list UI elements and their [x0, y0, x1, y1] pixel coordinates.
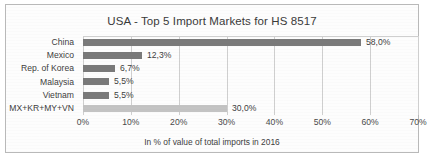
- xtick-20: 20%: [170, 117, 187, 127]
- bar-row-aggregate[interactable]: 30,0%: [83, 102, 418, 115]
- category-axis: China Mexico Rep. of Korea Malaysia Viet…: [6, 36, 78, 115]
- bar-rep-of-korea[interactable]: [83, 65, 115, 72]
- category-label-malaysia: Malaysia: [6, 76, 78, 89]
- xtick-30: 30%: [218, 117, 235, 127]
- bar-value-vietnam: 5,5%: [114, 89, 134, 102]
- xtick-50: 50%: [314, 117, 331, 127]
- xtick-70: 70%: [409, 117, 426, 127]
- category-label-aggregate: MX+KR+MY+VN: [6, 102, 78, 115]
- bar-vietnam[interactable]: [83, 92, 109, 99]
- chart-title: USA - Top 5 Import Markets for HS 8517: [6, 15, 418, 27]
- xtick-60: 60%: [362, 117, 379, 127]
- bar-china[interactable]: [83, 39, 361, 46]
- bar-row-vietnam[interactable]: 5,5%: [83, 89, 418, 102]
- bar-mexico[interactable]: [83, 52, 142, 59]
- xtick-0: 0%: [77, 117, 89, 127]
- plot-area: 58,0% 12,3% 6,7% 5,5% 5,5% 30,0%: [83, 36, 418, 115]
- x-axis: 0% 10% 20% 30% 40% 50% 60% 70%: [83, 117, 418, 131]
- xtick-40: 40%: [266, 117, 283, 127]
- bar-malaysia[interactable]: [83, 78, 109, 85]
- bar-aggregate[interactable]: [83, 105, 227, 112]
- x-axis-title: In % of value of total imports in 2016: [6, 137, 418, 147]
- category-label-rep-of-korea: Rep. of Korea: [6, 62, 78, 75]
- chart-figure: USA - Top 5 Import Markets for HS 8517 C…: [5, 4, 419, 153]
- bar-row-china[interactable]: 58,0%: [83, 36, 418, 49]
- category-label-vietnam: Vietnam: [6, 89, 78, 102]
- category-label-mexico: Mexico: [6, 49, 78, 62]
- bar-row-mexico[interactable]: 12,3%: [83, 49, 418, 62]
- bar-value-mexico: 12,3%: [147, 49, 171, 62]
- bar-row-malaysia[interactable]: 5,5%: [83, 75, 418, 88]
- bar-value-aggregate: 30,0%: [232, 102, 256, 115]
- category-label-china: China: [6, 36, 78, 49]
- xtick-10: 10%: [122, 117, 139, 127]
- bar-value-rep-of-korea: 6,7%: [120, 62, 140, 75]
- gridline-70: [418, 36, 419, 115]
- bar-value-malaysia: 5,5%: [114, 75, 134, 88]
- bar-value-china: 58,0%: [366, 36, 390, 49]
- bar-row-rep-of-korea[interactable]: 6,7%: [83, 62, 418, 75]
